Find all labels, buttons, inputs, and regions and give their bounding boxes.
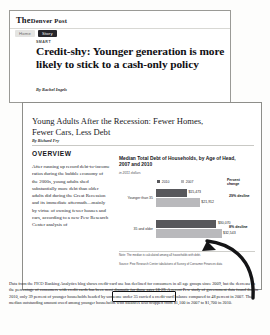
overview-heading: OVERVIEW (32, 150, 71, 157)
chart-title: Median Total Debt of Households, by Age … (119, 156, 239, 169)
newspaper-masthead: TheDenver Post (16, 15, 67, 25)
bottom-paragraph: Data from the FICO Banking Analytics blo… (9, 281, 261, 307)
bars-younger: $15,473 $21,912 (156, 189, 228, 208)
percent-change-header: Percent change (227, 178, 253, 187)
document-page: TheDenver Post Home Story SMART Credit-s… (0, 0, 270, 335)
category-label-older: 35 and older (119, 227, 153, 231)
bar-2007-younger: $21,912 (156, 198, 228, 207)
bar-group-older: 35 and older $30,070 $32,543 8% decline (119, 219, 255, 245)
percent-change-younger: 29% decline (229, 194, 255, 199)
report-divider (32, 145, 254, 146)
masthead-the: The (16, 15, 31, 25)
nav-tabs: Home Story (15, 30, 57, 37)
legend-swatch-2007 (181, 180, 184, 183)
legend-item-2010: 2010 (157, 180, 169, 184)
legend-label-2010: 2010 (162, 180, 170, 184)
masthead-name: Denver Post (31, 17, 67, 24)
report-body-text: After running up record debt-to-income r… (32, 163, 110, 229)
chart-source: Source: Pew Research Center tabulations … (119, 262, 253, 266)
report-byline: By Richard Fry (32, 138, 59, 143)
chart-legend: 2010 2007 Percent change (119, 179, 255, 187)
bar-2010-younger: $15,473 (156, 189, 228, 198)
chart-figure: Median Total Debt of Households, by Age … (119, 156, 255, 268)
news-article-card: TheDenver Post Home Story SMART Credit-s… (9, 10, 231, 103)
bar-value-2010-younger: $15,473 (188, 190, 201, 194)
chart-subtitle: in 2011 dollars (119, 171, 255, 175)
article-headline: Credit-shy: Younger generation is more l… (36, 45, 226, 72)
chart-footer-divider (119, 251, 255, 252)
nav-tab-story[interactable]: Story (38, 30, 57, 37)
percent-change-older: 8% decline (229, 225, 255, 230)
bar-2007-older: $32,543 (156, 229, 228, 238)
bar-group-younger: Younger than 35 $15,473 $21,912 29% decl… (119, 188, 255, 214)
article-kicker: SMART (36, 40, 51, 44)
masthead-divider (10, 28, 230, 29)
article-byline: By Rachel Ingels (36, 87, 67, 92)
bar-value-2007-younger: $21,912 (201, 200, 214, 204)
report-card: Young Adults After the Recession: Fewer … (22, 102, 262, 290)
bar-2010-older: $30,070 (156, 220, 228, 229)
legend-label-2007: 2007 (186, 180, 194, 184)
bar-value-2007-older: $32,543 (223, 231, 236, 235)
chart-plot-area: Younger than 35 $15,473 $21,912 29% decl… (119, 188, 255, 250)
bars-older: $30,070 $32,543 (156, 220, 228, 239)
nav-tab-home[interactable]: Home (15, 30, 35, 37)
chart-note: Note: The median is calculated among all… (119, 253, 253, 257)
category-label-younger: Younger than 35 (119, 196, 153, 200)
report-title: Young Adults After the Recession: Fewer … (32, 116, 207, 137)
legend-swatch-2010 (157, 180, 160, 183)
legend-item-2007: 2007 (181, 180, 193, 184)
